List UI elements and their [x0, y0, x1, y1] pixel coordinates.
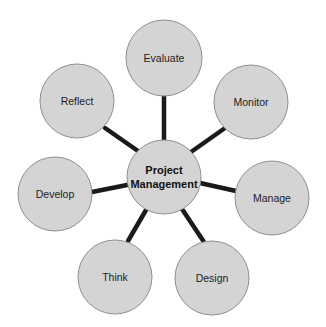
spoke-hub-monitor [191, 128, 225, 152]
spoke-hub-manage [200, 183, 236, 191]
node-reflect-label: Reflect [61, 95, 94, 107]
spoke-hub-design [182, 209, 204, 242]
node-monitor-label: Monitor [233, 96, 269, 108]
project-management-diagram: Evaluate Monitor Manage Design Think Dev… [0, 0, 326, 327]
node-evaluate-label: Evaluate [144, 52, 185, 64]
hub-label-line2: Management [130, 178, 198, 190]
node-manage[interactable]: Manage [235, 161, 309, 235]
hub-label-line1: Project [145, 164, 183, 176]
node-monitor[interactable]: Monitor [214, 65, 288, 139]
node-evaluate[interactable]: Evaluate [126, 20, 202, 96]
node-think-label: Think [102, 271, 128, 283]
spoke-hub-think [128, 210, 146, 241]
spoke-hub-reflect [105, 128, 138, 151]
node-reflect[interactable]: Reflect [40, 64, 114, 138]
node-design[interactable]: Design [175, 241, 249, 315]
node-hub-project-management[interactable]: Project Management [127, 140, 201, 214]
node-develop[interactable]: Develop [18, 157, 92, 231]
node-design-label: Design [196, 272, 229, 284]
node-think[interactable]: Think [78, 240, 152, 314]
spoke-hub-develop [92, 185, 127, 192]
node-develop-label: Develop [36, 188, 75, 200]
node-manage-label: Manage [253, 192, 291, 204]
diagram-canvas: Evaluate Monitor Manage Design Think Dev… [0, 0, 326, 327]
